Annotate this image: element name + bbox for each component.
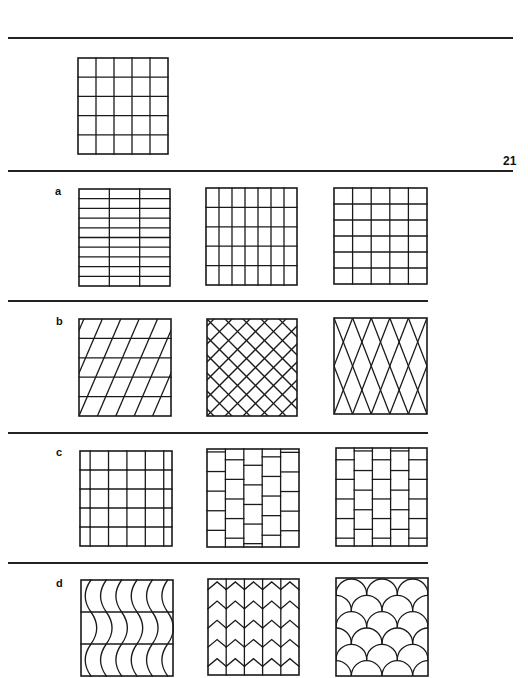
diamond-line-down [464,318,501,414]
chevron [244,639,262,647]
figure-a3-rect-grid [334,188,427,284]
scale-arc [367,612,398,627]
scale-arc [382,595,413,610]
scale-arc [351,661,382,676]
scale-arcs [305,579,474,678]
figure-c2-stepped-columns [207,449,299,547]
diagonal-line [42,319,84,416]
wave-curve [147,580,159,676]
lattice-line-down [423,319,520,416]
scale-arc [351,628,382,643]
top-rule [8,37,513,39]
scale-arc [305,644,336,659]
scale-arc [305,579,336,594]
chevron [244,601,262,609]
figure-b2-diagonal-lattice [207,319,297,416]
figure-c3-stacked-columns-offset [336,448,427,546]
figure-frame [207,319,297,416]
chevron [263,639,281,647]
diagonal-line [24,319,66,416]
scale-arc [351,595,382,610]
wave-curve [101,580,113,676]
figure-d3-fish-scale [336,578,428,676]
lattice-line-up [0,319,88,416]
scale-arc [428,612,459,627]
chevron [281,601,299,609]
figure-b3-tall-diamonds [334,318,427,414]
page-number: 21 [503,154,516,168]
figure-frame [80,451,172,546]
diamond-line-up [446,318,483,414]
scale-arc [397,579,428,594]
scale-arc [428,579,459,594]
scale-arc [382,628,413,643]
diagonal-line [61,319,103,416]
figure-d2-chevron-columns [208,579,299,675]
rule-above-section-b [8,300,428,302]
chevron [244,620,262,628]
chevron [208,639,226,647]
rule-above-section-a [8,170,513,172]
rule-above-section-c [8,432,428,434]
chevron [281,620,299,628]
diagonal-line [134,319,176,416]
figure-a2-rect-grid [206,188,297,285]
chevron [244,659,262,667]
chevron [263,582,281,590]
figure-frame [79,319,171,416]
diamond-line-down [520,318,528,414]
diamond-line-up [464,318,501,414]
chevron [263,659,281,667]
wave-curve [116,580,128,676]
section-label-a: a [55,185,61,197]
scale-arc [367,644,398,659]
scale-arc [443,661,474,676]
chevron [226,601,244,609]
diamond-line-down [483,318,520,414]
lattice-line-down [0,319,88,416]
diamond-line-up [501,318,528,414]
chevron [226,582,244,590]
chevron [281,659,299,667]
diagonal-line [97,319,139,416]
scale-arc [443,628,474,643]
section-label-b: b [56,315,63,327]
diamond-line-down [446,318,483,414]
chevron [208,659,226,667]
figure-c1-running-bond [80,451,172,546]
intro-square-grid [78,58,168,154]
scale-arc [305,612,336,627]
chevron [263,620,281,628]
scale-arc [336,612,367,627]
chevron [208,582,226,590]
figure-frame [336,578,428,676]
figure-frame [208,579,299,675]
diamond-line-down [501,318,528,414]
chevron [244,582,262,590]
chevron [208,620,226,628]
scale-arc [397,644,428,659]
scale-arc [336,644,367,659]
chevron [226,659,244,667]
rule-above-section-d [8,562,428,564]
figure-a1-rect-grid [79,189,170,286]
scale-arc [382,661,413,676]
diagonal-line [79,319,121,416]
wave-curve [85,580,97,676]
diamond-line-up [297,318,334,414]
chevron [226,620,244,628]
lattice-line-down [441,319,528,416]
diagonal-line [116,319,158,416]
figure-frame [78,58,168,154]
diamond-line-up [483,318,520,414]
lattice-line-up [423,319,520,416]
figure-d1-wavy-bands [81,580,173,676]
diamond-line-up [427,318,464,414]
diamond-line-down [427,318,464,414]
scale-arc [367,579,398,594]
wave-curve [131,580,143,676]
figure-b1-parallelogram-grid [79,319,171,416]
diagonal-line [153,319,195,416]
figure-frame [336,448,427,546]
figure-frame [207,449,299,547]
